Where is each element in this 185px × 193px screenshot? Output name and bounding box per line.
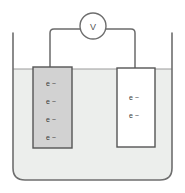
- left-wire: [50, 29, 80, 67]
- left-electrode-charge-label: e −: [46, 98, 56, 105]
- right-wire: [106, 29, 135, 68]
- right-electrode-charge-label: e −: [129, 94, 139, 101]
- left-electrode-charge-label: e −: [46, 134, 56, 141]
- right-electrode-charge-label: e −: [129, 112, 139, 119]
- left-electrode-charge-label: e −: [46, 80, 56, 87]
- left-electrode-charge-label: e −: [46, 116, 56, 123]
- voltmeter-label: V: [90, 22, 96, 32]
- cell-diagram-canvas: V e − e − e − e − e − e −: [0, 0, 185, 193]
- right-electrode: [117, 68, 155, 147]
- electrochemical-cell-figure: V e − e − e − e − e − e −: [0, 0, 185, 193]
